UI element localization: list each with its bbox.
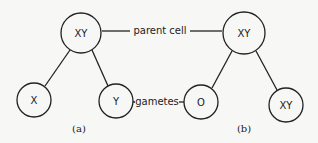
gamete-label-a-right: Y [112, 96, 120, 107]
gamete-label-b-right: XY [280, 100, 294, 111]
gametes-label: gametes [135, 96, 179, 107]
caption-b: (b) [237, 123, 251, 134]
meiosis-diagram: XY X Y (a) XY O XY (b) parent cell gamet… [0, 0, 318, 143]
parent-label-b: XY [238, 28, 252, 39]
gamete-label-a-left: X [31, 95, 38, 106]
parent-label-a: XY [75, 28, 89, 39]
caption-a: (a) [72, 123, 86, 134]
gamete-label-b-left: O [197, 97, 205, 108]
parent-cell-label: parent cell [133, 25, 186, 36]
